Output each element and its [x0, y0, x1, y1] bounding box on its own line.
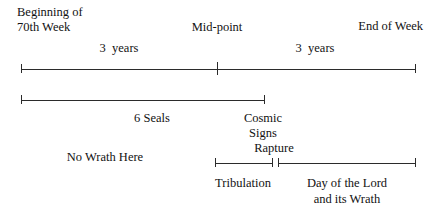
label-cosmic-signs-line2: Signs	[249, 126, 277, 140]
tick-tribulation-start	[215, 158, 216, 167]
label-day-of-the-lord-line2: and its Wrath	[314, 192, 381, 206]
label-day-of-the-lord-line1: Day of the Lord	[307, 176, 387, 190]
tick-tribulation-end	[272, 158, 273, 167]
tick-week-end	[415, 64, 416, 73]
label-six-seals: 6 Seals	[134, 111, 170, 125]
label-beginning-of-70th-week-line2: 70th Week	[17, 20, 70, 34]
tick-six-seals-end	[264, 95, 265, 104]
tick-day-of-the-lord-end	[415, 158, 416, 167]
timeline-diagram: Beginning of 70th Week Mid-point End of …	[0, 0, 437, 222]
label-rapture: Rapture	[254, 141, 294, 155]
label-beginning-of-70th-week-line1: Beginning of	[17, 5, 83, 19]
label-first-half-duration: 3 years	[100, 41, 139, 55]
tick-week-start	[21, 64, 22, 73]
label-mid-point: Mid-point	[192, 20, 243, 34]
label-end-of-week: End of Week	[358, 19, 423, 33]
axis-six-seals	[21, 100, 264, 101]
tick-mid-point	[217, 62, 218, 75]
tick-day-of-the-lord-start	[278, 158, 279, 167]
label-second-half-duration: 3 years	[296, 41, 335, 55]
label-no-wrath-here: No Wrath Here	[67, 150, 143, 164]
label-cosmic-signs-line1: Cosmic	[244, 111, 282, 125]
axis-day-of-the-lord	[278, 163, 415, 164]
tick-six-seals-start	[21, 95, 22, 104]
axis-tribulation	[215, 163, 272, 164]
label-tribulation: Tribulation	[215, 176, 271, 190]
axis-seventieth-week	[21, 69, 415, 70]
